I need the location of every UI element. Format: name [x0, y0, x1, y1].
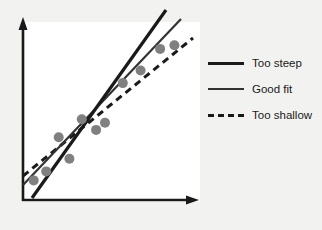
data-point: [136, 66, 146, 76]
y-axis-arrowhead: [19, 17, 28, 30]
data-point: [100, 118, 110, 128]
data-point: [41, 166, 51, 176]
legend: Too steep Good fit Too shallow: [208, 50, 320, 128]
x-axis-arrowhead: [186, 196, 199, 205]
regression-fit-figure: Too steep Good fit Too shallow: [0, 0, 322, 230]
legend-item-good-fit: Good fit: [208, 76, 320, 102]
legend-item-too-steep: Too steep: [208, 50, 320, 76]
data-point: [54, 132, 64, 142]
data-point: [118, 78, 128, 88]
legend-item-label: Too steep: [252, 57, 302, 70]
data-point: [91, 125, 101, 135]
dashed-line-icon: [208, 109, 244, 121]
solid-thin-line-icon: [208, 83, 244, 95]
data-point: [64, 154, 74, 164]
solid-thick-line-icon: [208, 57, 244, 69]
data-point: [29, 175, 39, 185]
legend-item-label: Good fit: [252, 83, 292, 96]
too-shallow-line: [23, 38, 193, 176]
data-point: [155, 44, 165, 54]
data-point: [169, 40, 179, 50]
data-points-group: [29, 40, 180, 185]
data-point: [77, 114, 87, 124]
legend-item-too-shallow: Too shallow: [208, 102, 320, 128]
legend-item-label: Too shallow: [252, 109, 312, 122]
too-steep-line: [32, 10, 166, 198]
